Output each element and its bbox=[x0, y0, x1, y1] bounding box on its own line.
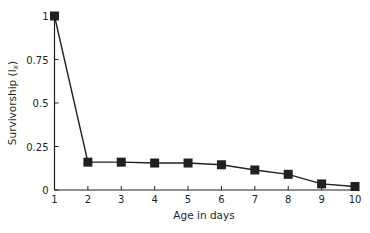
data-point-square-marker bbox=[250, 165, 259, 174]
x-tick-label: 3 bbox=[118, 194, 124, 205]
x-tick-label: 7 bbox=[252, 194, 258, 205]
y-axis-label: Survivorship (lx) bbox=[6, 61, 20, 145]
x-tick-label: 5 bbox=[185, 194, 191, 205]
data-point-square-marker bbox=[117, 158, 126, 167]
y-tick-label: 0.5 bbox=[33, 98, 49, 109]
survivorship-chart: 1234567891000.250.50.751 Age in days Sur… bbox=[0, 0, 370, 233]
x-axis-label: Age in days bbox=[173, 209, 234, 221]
x-tick-label: 2 bbox=[85, 194, 91, 205]
data-point-square-marker bbox=[317, 179, 326, 188]
data-point-square-marker bbox=[83, 158, 92, 167]
y-tick-label: 1 bbox=[42, 11, 48, 22]
data-series bbox=[50, 12, 360, 192]
x-tick-label: 4 bbox=[151, 194, 157, 205]
data-point-square-marker bbox=[351, 182, 360, 191]
y-tick-label: 0 bbox=[42, 185, 48, 196]
y-axis-label-close: ) bbox=[6, 61, 18, 65]
x-tick-label: 6 bbox=[218, 194, 224, 205]
data-point-square-marker bbox=[284, 170, 293, 179]
data-point-square-marker bbox=[217, 160, 226, 169]
survivorship-line bbox=[55, 16, 356, 187]
y-tick-label: 0.25 bbox=[26, 142, 48, 153]
x-tick-label: 10 bbox=[349, 194, 362, 205]
y-tick-label: 0.75 bbox=[26, 55, 48, 66]
data-point-square-marker bbox=[150, 159, 159, 168]
x-tick-label: 1 bbox=[51, 194, 57, 205]
x-tick-label: 9 bbox=[318, 194, 324, 205]
data-point-square-marker bbox=[184, 159, 193, 168]
data-point-square-marker bbox=[50, 12, 59, 21]
ticks: 1234567891000.250.50.751 bbox=[26, 11, 361, 205]
x-tick-label: 8 bbox=[285, 194, 291, 205]
y-axis-label-main: Survivorship (l bbox=[6, 69, 18, 145]
